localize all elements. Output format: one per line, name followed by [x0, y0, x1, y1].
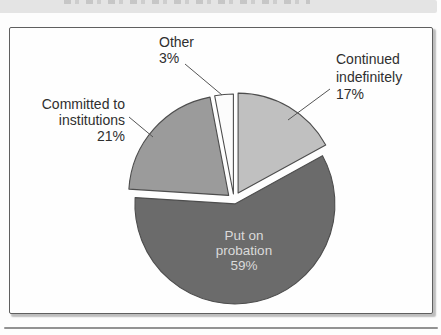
slice-label-committed-to-institutions: Committed to institutions 21% — [30, 96, 125, 144]
slice-label-put-on-probation: Put on probation 59% — [204, 228, 284, 273]
leader-line-other — [185, 64, 222, 95]
pie-slice-committed-to-institutions — [129, 97, 229, 195]
leader-line-continued — [288, 89, 330, 120]
leader-line-committed — [129, 117, 153, 137]
slice-label-other: Other 3% — [159, 34, 229, 66]
figure: Other 3% Continued indefinitely 17% Comm… — [0, 0, 441, 335]
bottom-rule — [4, 327, 438, 329]
slice-label-continued-indefinitely: Continued indefinitely 17% — [336, 51, 431, 104]
